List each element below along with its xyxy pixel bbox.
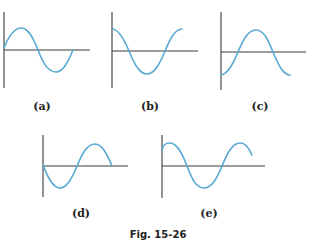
panel-c-graph xyxy=(221,12,306,90)
panel-a-graph xyxy=(4,12,90,88)
panel-e-graph xyxy=(162,135,265,198)
panel-b-label: (b) xyxy=(141,100,159,113)
panel-c-label: (c) xyxy=(251,100,268,113)
figure-caption: Fig. 15-26 xyxy=(130,229,187,240)
waveform-figure xyxy=(0,0,317,249)
panel-b-graph xyxy=(112,12,198,88)
panel-a-label: (a) xyxy=(33,100,51,113)
panel-e-label: (e) xyxy=(200,207,217,220)
panel-d-graph xyxy=(43,135,128,197)
panel-d-label: (d) xyxy=(72,207,90,220)
